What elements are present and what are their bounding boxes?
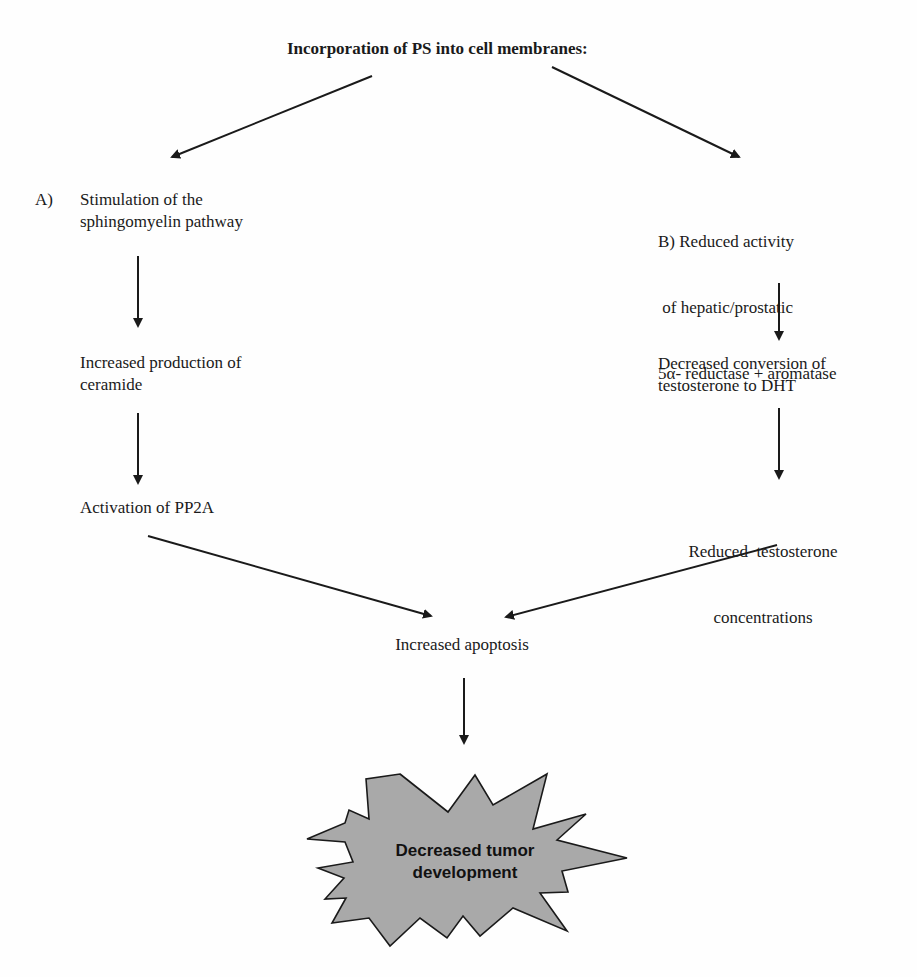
branch-a-label: A) [35, 189, 53, 211]
branch-a-step2: Increased production of ceramide [80, 352, 241, 396]
branch-b-step2-line1: Decreased conversion of [658, 353, 826, 375]
diagram-canvas: Incorporation of PS into cell membranes:… [0, 0, 917, 977]
branch-b-step3-line2: concentrations [658, 607, 868, 629]
branch-a-step3: Activation of PP2A [80, 497, 214, 519]
branch-b-step2: Decreased conversion of testosterone to … [658, 353, 826, 397]
branch-a-step1-line2: sphingomyelin pathway [80, 211, 243, 233]
branch-b-step1-line2: of hepatic/prostatic [658, 297, 837, 319]
branch-b-step2-line2: testosterone to DHT [658, 375, 826, 397]
branch-b-step3-line1: Reduced testosterone [658, 541, 868, 563]
arrows-layer [0, 0, 917, 977]
branch-a-step2-line2: ceramide [80, 374, 241, 396]
diagram-title: Incorporation of PS into cell membranes: [287, 38, 588, 60]
arrow-title-to-b [552, 67, 739, 157]
branch-b-step3: Reduced testosterone concentrations [658, 497, 868, 673]
branch-a-step1-line1: Stimulation of the [80, 189, 243, 211]
branch-a-step3-line1: Activation of PP2A [80, 497, 214, 519]
branch-a-step2-line1: Increased production of [80, 352, 241, 374]
outcome-line1: Decreased tumor [360, 840, 570, 862]
outcome-line2: development [360, 862, 570, 884]
branch-b-step1-line1: B) Reduced activity [658, 231, 837, 253]
arrow-a3-to-apoptosis [148, 536, 431, 616]
branch-a-step1: Stimulation of the sphingomyelin pathway [80, 189, 243, 233]
arrow-title-to-a [172, 76, 372, 157]
outcome-label: Decreased tumor development [360, 840, 570, 884]
merge-apoptosis: Increased apoptosis [340, 634, 584, 656]
